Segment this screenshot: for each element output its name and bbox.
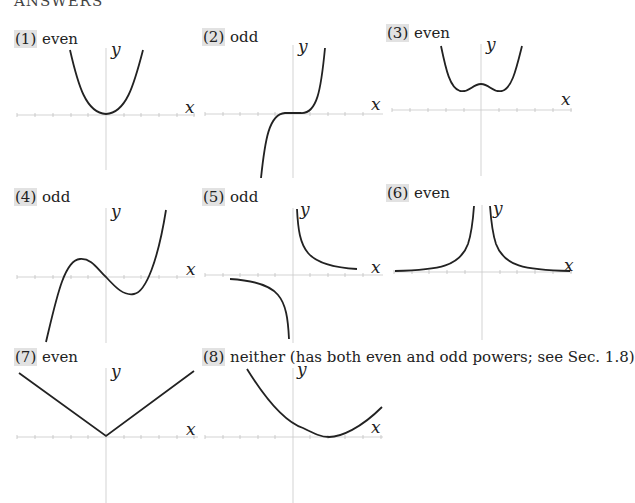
graph-panel-5: (5) odd y x: [195, 180, 395, 345]
graph-panel-8: (8) neither (has both even and odd power…: [195, 340, 590, 503]
graph-panel-2: (2) odd y x: [195, 0, 395, 180]
svg-text:y: y: [110, 361, 121, 381]
graph-panel-6: (6) even y x: [380, 180, 590, 345]
graph-3-plot: y x: [380, 0, 590, 180]
graph-6-plot: y x: [380, 180, 590, 345]
svg-text:y: y: [297, 36, 308, 56]
graph-5-plot: y x: [195, 180, 395, 345]
graph-panel-1: (1) even y x: [0, 0, 200, 180]
graph-4-plot: y x: [0, 180, 200, 345]
svg-text:y: y: [299, 199, 310, 219]
svg-text:x: x: [564, 255, 574, 275]
svg-text:x: x: [561, 89, 571, 109]
graph-7-plot: y x: [0, 340, 200, 503]
graph-1-plot: y x: [0, 0, 200, 180]
graph-2-plot: y x: [195, 0, 395, 180]
graph-panel-4: (4) odd y x: [0, 180, 200, 345]
graph-panel-3: (3) even y x: [380, 0, 590, 180]
svg-text:x: x: [371, 417, 381, 437]
graph-panel-7: (7) even y x: [0, 340, 200, 503]
svg-text:y: y: [485, 34, 496, 54]
svg-text:y: y: [110, 201, 121, 221]
svg-text:y: y: [296, 359, 307, 379]
svg-text:x: x: [185, 97, 195, 117]
svg-text:y: y: [110, 39, 121, 59]
svg-text:y: y: [492, 198, 503, 218]
graph-8-plot: y x: [195, 340, 590, 503]
